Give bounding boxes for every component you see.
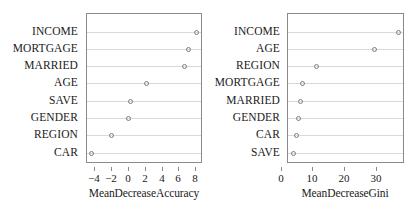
plot-area-accuracy <box>86 13 202 163</box>
axis-tick <box>111 167 112 171</box>
data-point <box>194 30 199 35</box>
variable-importance-plot-accuracy: INCOMEMORTGAGEMARRIEDAGESAVEGENDERREGION… <box>0 0 210 219</box>
axis-tick <box>376 167 377 171</box>
axis-tick <box>195 167 196 171</box>
axis-tick-label: −2 <box>105 173 117 184</box>
data-point <box>291 151 296 156</box>
axis-tick <box>281 167 282 171</box>
gridline <box>288 118 403 119</box>
gridline <box>288 153 403 154</box>
x-axis-title-accuracy: MeanDecreaseAccuracy <box>89 187 199 199</box>
gridline <box>288 66 403 67</box>
category-label: AGE <box>54 78 78 90</box>
data-point <box>372 47 377 52</box>
gridline <box>288 49 403 50</box>
axis-tick <box>128 167 129 171</box>
axis-tick-label: 0 <box>278 173 284 184</box>
gridline <box>288 32 403 33</box>
data-point <box>396 30 401 35</box>
gridline <box>288 135 403 136</box>
axis-tick-label: 10 <box>307 173 318 184</box>
category-label: REGION <box>34 130 78 142</box>
gridline <box>87 118 201 119</box>
category-label: GENDER <box>233 112 280 124</box>
data-point <box>89 151 94 156</box>
axis-tick-label: 0 <box>125 173 131 184</box>
category-label: SAVE <box>49 95 78 107</box>
category-label: MARRIED <box>24 60 78 72</box>
category-label: MARRIED <box>226 95 280 107</box>
category-label: REGION <box>236 60 280 72</box>
gridline <box>87 49 201 50</box>
axis-tick <box>312 167 313 171</box>
gridline <box>288 101 403 102</box>
axis-tick <box>178 167 179 171</box>
axis-tick-label: 6 <box>175 173 181 184</box>
gridline <box>87 32 201 33</box>
axis-tick-label: 20 <box>339 173 350 184</box>
data-point <box>126 116 131 121</box>
axis-tick <box>162 167 163 171</box>
category-label: AGE <box>256 43 280 55</box>
gridline <box>87 101 201 102</box>
plot-area-gini <box>287 13 404 163</box>
category-label: CAR <box>54 147 78 159</box>
category-label: MORTGAGE <box>13 43 78 55</box>
axis-tick <box>145 167 146 171</box>
x-axis-title-gini: MeanDecreaseGini <box>301 187 388 199</box>
variable-importance-plot-gini: INCOMEAGEREGIONMORTGAGEMARRIEDGENDERCARS… <box>210 0 419 219</box>
axis-tick-label: −4 <box>88 173 100 184</box>
axis-tick-label: 8 <box>192 173 198 184</box>
category-label: SAVE <box>251 147 280 159</box>
data-point <box>298 99 303 104</box>
axis-tick <box>344 167 345 171</box>
gridline <box>87 135 201 136</box>
gridline <box>288 83 403 84</box>
category-label: MORTGAGE <box>215 78 280 90</box>
category-label: CAR <box>256 130 280 142</box>
axis-tick-label: 4 <box>159 173 165 184</box>
category-label: GENDER <box>31 112 78 124</box>
axis-tick-label: 30 <box>371 173 382 184</box>
gridline <box>87 153 201 154</box>
category-label: INCOME <box>234 26 280 38</box>
axis-tick <box>94 167 95 171</box>
axis-tick-label: 2 <box>142 173 148 184</box>
category-label: INCOME <box>32 26 78 38</box>
